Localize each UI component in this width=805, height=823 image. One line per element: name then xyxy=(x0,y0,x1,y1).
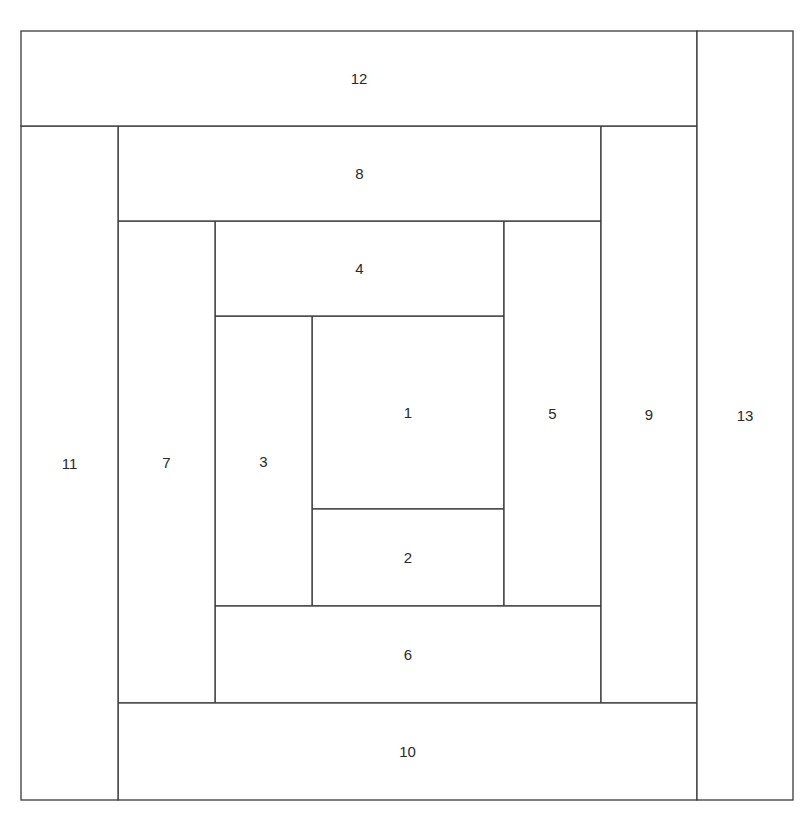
pieces-layer: 12345678910111213 xyxy=(21,31,793,800)
piece-12-label: 12 xyxy=(351,70,368,87)
quilt-piece-2: 2 xyxy=(312,509,504,606)
piece-1-label: 1 xyxy=(404,404,412,421)
piece-11-label: 11 xyxy=(62,455,78,472)
piece-2-label: 2 xyxy=(404,549,412,566)
piece-10-label: 10 xyxy=(399,743,416,760)
piece-8-label: 8 xyxy=(355,165,363,182)
quilt-piece-9: 9 xyxy=(601,126,697,703)
piece-6-label: 6 xyxy=(404,646,412,663)
piece-13-label: 13 xyxy=(737,407,754,424)
piece-7-label: 7 xyxy=(162,454,170,471)
quilt-piece-12: 12 xyxy=(21,31,697,126)
quilt-piece-10: 10 xyxy=(118,703,697,800)
quilt-piece-8: 8 xyxy=(118,126,601,221)
quilt-piece-6: 6 xyxy=(215,606,601,703)
quilt-piece-7: 7 xyxy=(118,221,215,703)
piece-9-label: 9 xyxy=(645,406,653,423)
quilt-piece-1: 1 xyxy=(312,316,504,509)
piece-4-label: 4 xyxy=(355,260,363,277)
quilt-piece-13: 13 xyxy=(697,31,793,800)
quilt-piece-4: 4 xyxy=(215,221,504,316)
piece-3-label: 3 xyxy=(259,453,267,470)
quilt-piece-5: 5 xyxy=(504,221,601,606)
quilt-piece-11: 11 xyxy=(21,126,118,800)
quilt-piece-3: 3 xyxy=(215,316,312,606)
piece-5-label: 5 xyxy=(548,405,556,422)
log-cabin-block-diagram: 12345678910111213 xyxy=(0,0,805,823)
